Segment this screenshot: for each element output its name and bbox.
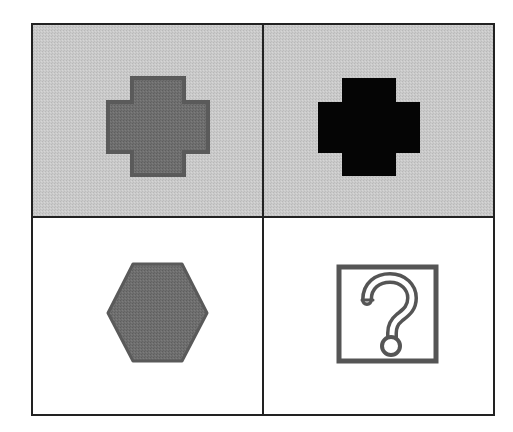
question-mark-icon xyxy=(339,267,436,361)
analogy-puzzle-grid xyxy=(0,0,513,432)
